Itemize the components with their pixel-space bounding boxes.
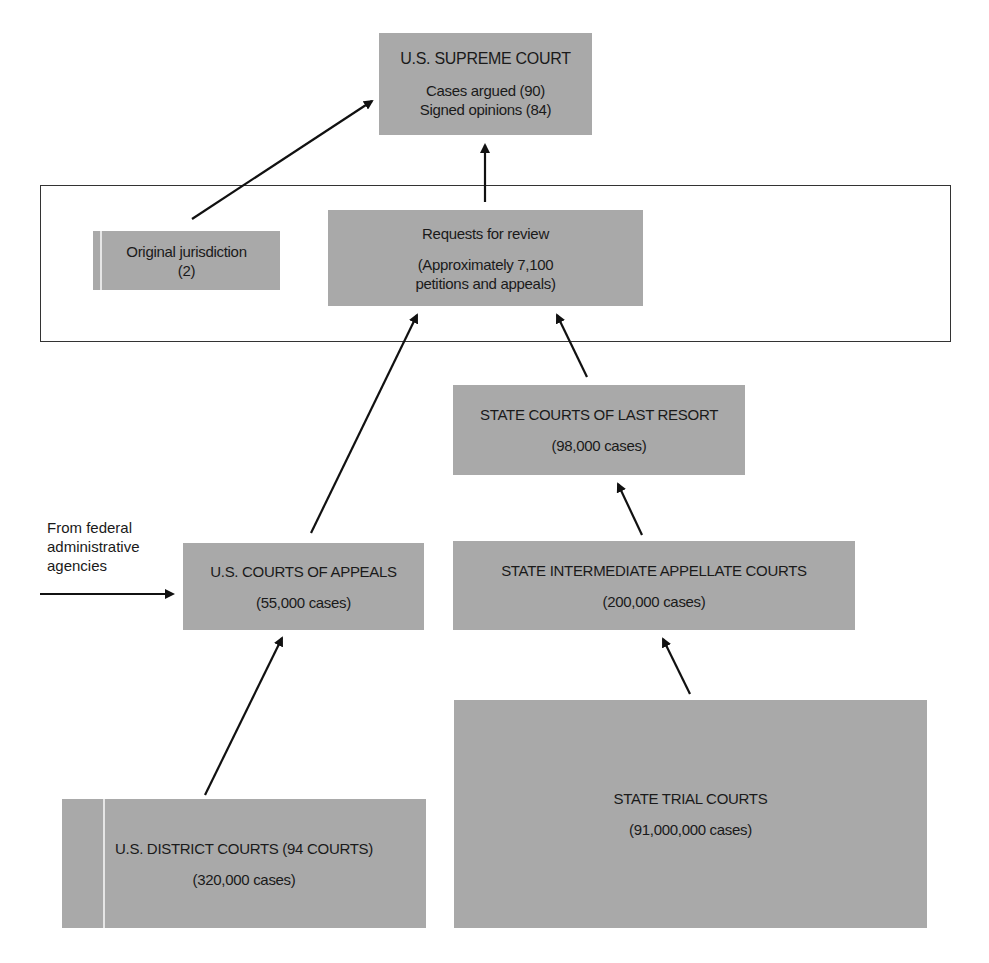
edges-layer <box>0 0 989 963</box>
arrow-trial-to-intermediate <box>663 639 690 694</box>
arrow-original-to-supreme <box>192 101 372 219</box>
arrow-appeals-to-requests <box>311 315 417 533</box>
arrow-intermediate-to-lastresort <box>618 484 642 535</box>
arrow-district-to-appeals <box>205 638 282 795</box>
arrow-lastresort-to-requests <box>557 315 587 377</box>
